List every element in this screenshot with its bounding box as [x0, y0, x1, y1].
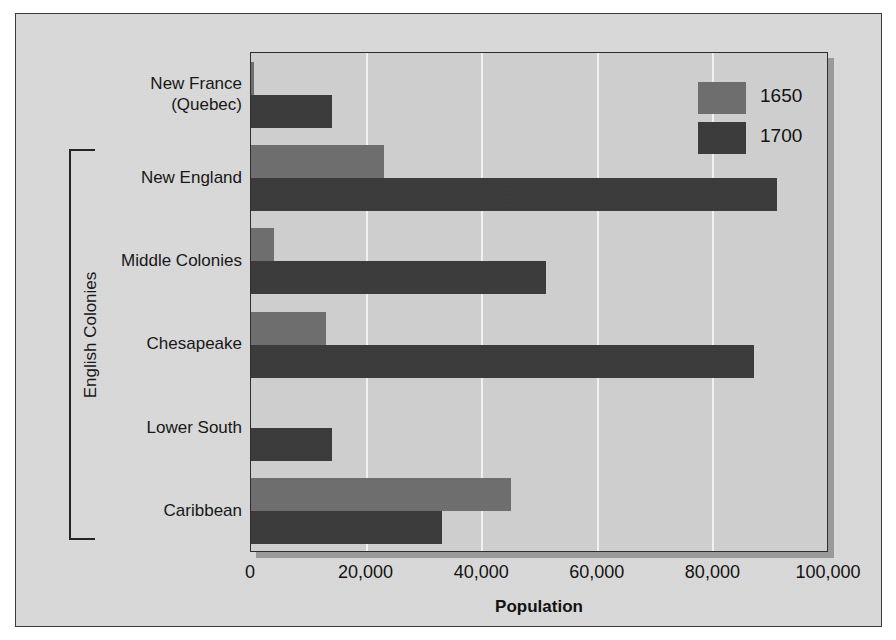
chart-legend: 16501700: [698, 82, 818, 162]
english-colonies-bracket: English Colonies: [69, 149, 95, 540]
bracket-label: English Colonies: [81, 175, 101, 495]
bar-1700-new-england: [251, 178, 777, 211]
category-label-new-france-quebec: New France (Quebec): [150, 73, 242, 115]
bracket-arm-top: [69, 149, 95, 151]
bar-1700-chesapeake: [251, 345, 754, 378]
legend-swatch-1650: [698, 82, 746, 114]
category-label-caribbean: Caribbean: [164, 500, 242, 521]
bar-1700-new-france-quebec: [251, 95, 332, 128]
x-tick-label: 80,000: [685, 562, 740, 583]
gridline: [597, 53, 599, 551]
gridline: [366, 53, 368, 551]
legend-entry-1700[interactable]: 1700: [698, 122, 818, 162]
x-tick-label: 20,000: [338, 562, 393, 583]
x-tick-label: 60,000: [569, 562, 624, 583]
chart-panel: New France (Quebec)New EnglandMiddle Col…: [15, 13, 882, 627]
x-tick-label: 100,000: [795, 562, 860, 583]
category-label-middle-colonies: Middle Colonies: [121, 250, 242, 271]
category-label-lower-south: Lower South: [147, 417, 242, 438]
bracket-arm-bottom: [69, 538, 95, 540]
legend-entry-1650[interactable]: 1650: [698, 82, 818, 122]
bracket-spine: [69, 149, 71, 540]
bar-1700-caribbean: [251, 511, 442, 544]
legend-swatch-1700: [698, 122, 746, 154]
bar-1650-middle-colonies: [251, 228, 274, 261]
x-axis-title: Population: [250, 597, 828, 617]
x-axis-tick-labels: 020,00040,00060,00080,000100,000: [250, 562, 828, 588]
bar-1700-middle-colonies: [251, 261, 546, 294]
chart-figure: New France (Quebec)New EnglandMiddle Col…: [0, 0, 896, 640]
bar-1650-chesapeake: [251, 312, 326, 345]
bar-1700-lower-south: [251, 428, 332, 461]
gridline: [481, 53, 483, 551]
category-label-new-england: New England: [141, 167, 242, 188]
x-tick-label: 0: [245, 562, 255, 583]
bar-1650-new-france-quebec: [251, 62, 254, 95]
bar-1650-caribbean: [251, 478, 511, 511]
legend-label-1700: 1700: [760, 125, 802, 147]
legend-label-1650: 1650: [760, 85, 802, 107]
category-label-chesapeake: Chesapeake: [147, 333, 242, 354]
bar-1650-new-england: [251, 145, 384, 178]
x-tick-label: 40,000: [454, 562, 509, 583]
